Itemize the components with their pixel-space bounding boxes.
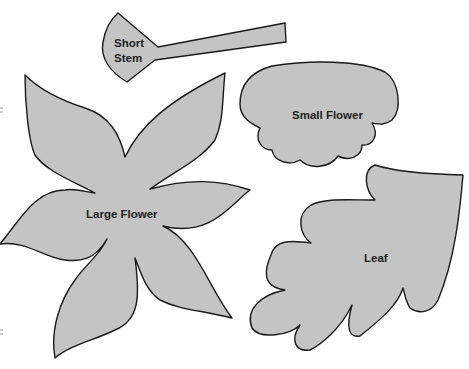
large-flower-label: Large Flower xyxy=(86,208,158,220)
leaf-label: Leaf xyxy=(364,252,388,264)
small-flower-template: Small Flower xyxy=(240,62,398,166)
edge-marks xyxy=(0,108,3,334)
leaf-template: Leaf xyxy=(250,165,463,350)
small-flower-label: Small Flower xyxy=(292,109,363,121)
short-stem-label-line1: Short xyxy=(114,37,144,49)
leaf-shape xyxy=(250,165,463,350)
pattern-sheet: Short Stem Small Flower Large Flower Lea… xyxy=(0,0,469,369)
short-stem-label-line2: Stem xyxy=(114,52,142,64)
large-flower-template: Large Flower xyxy=(0,73,250,358)
